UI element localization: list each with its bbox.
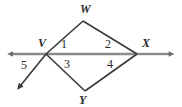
- vertex-label-W: W: [80, 3, 91, 15]
- angle-label-3: 3: [64, 58, 70, 70]
- geometry-figure: W V X Y 1 2 3 4 5: [0, 0, 182, 107]
- vertex-label-Y: Y: [79, 94, 86, 106]
- angle-label-5: 5: [21, 59, 27, 71]
- vertex-label-X: X: [142, 37, 150, 49]
- vertex-label-V: V: [38, 37, 46, 49]
- geometry-diagram-canvas: [0, 0, 182, 107]
- angle-label-2: 2: [105, 38, 111, 50]
- angle-label-1: 1: [61, 38, 67, 50]
- angle-label-4: 4: [107, 58, 113, 70]
